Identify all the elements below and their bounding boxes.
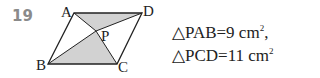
label-a: A bbox=[61, 4, 72, 20]
given-pab: △PAB=9 cm2, bbox=[172, 22, 268, 43]
given-pcd: △PCD=11 cm2 bbox=[172, 45, 274, 66]
label-c: C bbox=[118, 59, 128, 75]
label-p: P bbox=[101, 28, 109, 44]
label-b: B bbox=[36, 57, 46, 73]
label-d: D bbox=[143, 3, 154, 19]
